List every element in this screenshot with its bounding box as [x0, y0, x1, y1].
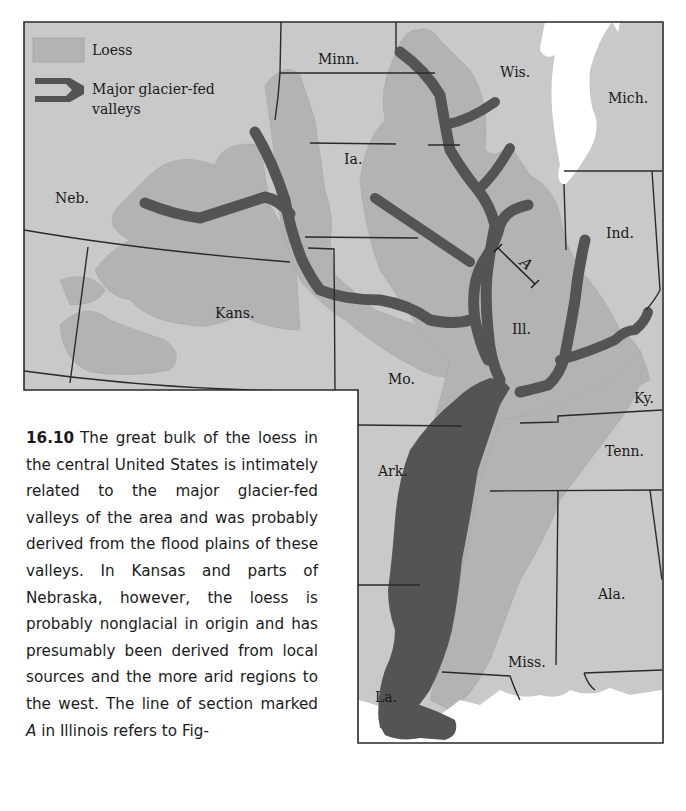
caption-section-letter: A	[26, 722, 36, 740]
legend-loess-swatch	[33, 38, 84, 62]
label-ill: Ill.	[512, 321, 531, 337]
label-neb: Neb.	[55, 190, 89, 206]
label-miss: Miss.	[508, 654, 546, 670]
label-tenn: Tenn.	[605, 443, 644, 459]
label-ia: Ia.	[344, 151, 362, 167]
label-ky: Ky.	[634, 390, 654, 406]
label-kans: Kans.	[215, 305, 254, 321]
label-mich: Mich.	[608, 90, 648, 106]
label-minn: Minn.	[318, 51, 359, 67]
legend-valley-label-line1: Major glacier-fed	[92, 81, 215, 97]
label-wis: Wis.	[500, 64, 530, 80]
legend-loess-label: Loess	[92, 42, 132, 58]
label-ark: Ark.	[377, 463, 408, 479]
caption-text-1: The great bulk of the loess in the centr…	[26, 429, 318, 713]
label-la: La.	[375, 689, 397, 705]
label-ala: Ala.	[597, 586, 625, 602]
figure-number: 16.10	[26, 429, 74, 447]
label-ind: Ind.	[606, 225, 634, 241]
figure: Loess Major glacier-fed valleys Minn. Wi…	[0, 0, 686, 811]
figure-caption: 16.10The great bulk of the loess in the …	[26, 425, 318, 744]
legend-valley-label-line2: valleys	[91, 101, 141, 117]
caption-text-2: in Illinois refers to Fig-	[36, 722, 209, 740]
label-mo: Mo.	[388, 371, 415, 387]
